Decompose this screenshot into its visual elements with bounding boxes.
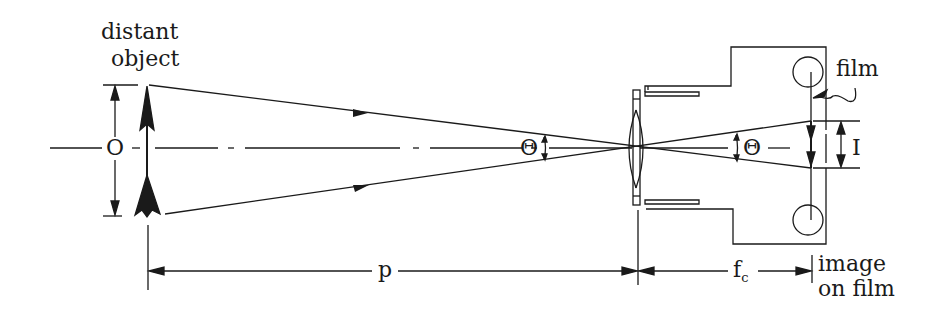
film-pointer: [813, 88, 856, 101]
image-on-film-label-line1: image: [818, 253, 886, 275]
image-arrow: [807, 121, 815, 168]
distance-dimensions: [148, 210, 812, 290]
object-arrow: [135, 86, 160, 217]
focal-length-subscript: c: [741, 270, 748, 285]
object-label-line2: object: [111, 48, 179, 70]
camera-body: [645, 47, 826, 244]
angle-arc-object-side: [542, 136, 547, 160]
object-label-line1: distant: [101, 21, 178, 43]
film-label: film: [836, 58, 879, 80]
angle-arc-image-side: [734, 134, 739, 161]
object-size-label: O: [106, 137, 124, 159]
focal-length-label: fc: [733, 259, 748, 289]
focal-length-base: f: [733, 257, 741, 282]
distance-p-label: p: [378, 259, 392, 281]
angle-label-image-side: Θ: [743, 137, 761, 159]
image-on-film-label-line2: on film: [818, 278, 895, 300]
angle-label-object-side: Θ: [520, 137, 538, 159]
light-rays: [149, 85, 811, 214]
image-size-label: I: [852, 137, 861, 159]
film-roll: [793, 57, 823, 235]
